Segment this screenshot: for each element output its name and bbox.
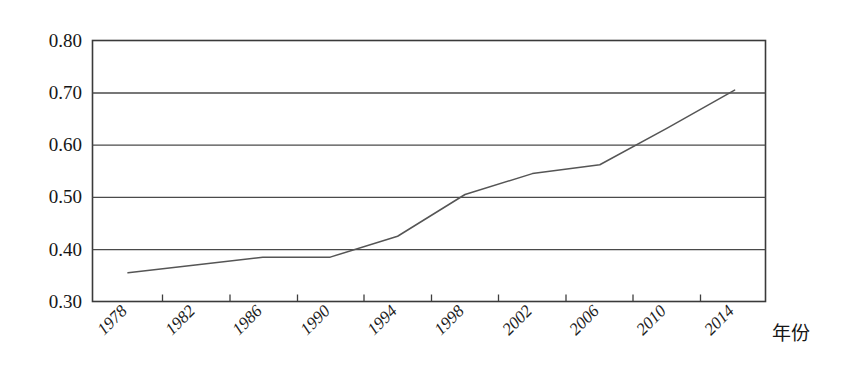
ytick-label-0-70: 0.70 [49, 82, 82, 103]
xtick-label-1990: 1990 [296, 301, 334, 339]
xtick-label-2010: 2010 [632, 301, 670, 339]
ytick-label-0-50: 0.50 [49, 186, 82, 207]
xtick-label-2014: 2014 [700, 301, 738, 339]
xtick-label-2006: 2006 [565, 301, 603, 339]
xtick-label-1982: 1982 [161, 301, 199, 339]
ytick-label-0-80: 0.80 [49, 30, 82, 51]
line-chart-figure: 0.80 0.70 0.60 0.50 0.40 0.30 1978 1982 … [0, 0, 843, 380]
ytick-label-0-60: 0.60 [49, 134, 82, 155]
plot-frame [93, 41, 766, 302]
xtick-label-1978: 1978 [93, 301, 131, 339]
xtick-label-1994: 1994 [363, 301, 401, 339]
xtick-label-2002: 2002 [498, 301, 536, 339]
xtick-label-1998: 1998 [430, 301, 468, 339]
ytick-label-0-40: 0.40 [49, 239, 82, 260]
ytick-label-0-30: 0.30 [49, 291, 82, 312]
data-series-line [128, 90, 735, 273]
xtick-label-1986: 1986 [228, 301, 266, 339]
x-axis-title: 年份 [772, 323, 810, 344]
chart-canvas: 0.80 0.70 0.60 0.50 0.40 0.30 1978 1982 … [0, 0, 843, 380]
